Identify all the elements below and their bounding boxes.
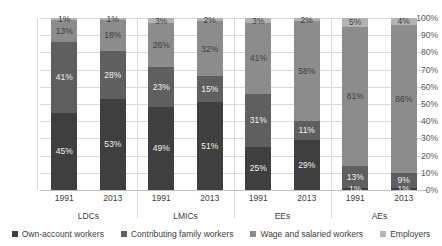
x-axis-year-label: 2013 (186, 190, 235, 203)
bar-segment[interactable]: 28% (100, 51, 126, 99)
legend-item[interactable]: Own-account workers (12, 230, 104, 239)
bar-slot: 3%26%23%49% (137, 18, 186, 190)
bar-segment-value-label: 1% (58, 15, 70, 24)
bar-segment-value-label: 1% (349, 185, 361, 194)
bar-segment-value-label: 13% (56, 27, 73, 36)
y-axis-tick-label: 10% (421, 169, 438, 178)
bar-segment-value-label: 2% (204, 15, 216, 24)
bar-segment-value-label: 1% (398, 185, 410, 194)
bar-segment[interactable]: 4% (391, 18, 417, 25)
bar-segment-value-label: 29% (298, 161, 315, 170)
stacked-bar[interactable]: 2%58%11%29% (294, 18, 320, 190)
bar-segment-value-label: 18% (104, 31, 121, 40)
y-axis-line (37, 18, 38, 190)
bar-segment-value-label: 58% (298, 67, 315, 76)
stacked-bar[interactable]: 3%26%23%49% (148, 18, 174, 190)
stacked-bar[interactable]: 3%41%31%25% (245, 18, 271, 190)
bar-group: 3%41%31%25%2%58%11%29% (234, 18, 331, 190)
y-axis-tick-label: 60% (421, 83, 438, 92)
bar-segment[interactable]: 18% (100, 20, 126, 51)
bar-segment-value-label: 13% (347, 173, 364, 182)
legend-label: Employers (390, 230, 430, 239)
stacked-bar[interactable]: 4%86%9%1% (391, 18, 417, 190)
legend-swatch-icon (12, 231, 18, 237)
bar-segment-value-label: 41% (250, 54, 267, 63)
legend-label: Wage and salaried workers (260, 230, 363, 239)
legend-item[interactable]: Employers (380, 230, 430, 239)
legend-swatch-icon (380, 231, 386, 237)
bar-segment[interactable]: 29% (294, 140, 320, 190)
bar-group: 5%81%13%1%4%86%9%1% (331, 18, 428, 190)
bar-segment-value-label: 2% (301, 15, 313, 24)
category-group-label: 19912013LMICs (137, 190, 234, 224)
bar-slot: 5%81%13%1% (331, 18, 380, 190)
bar-segment-value-label: 5% (349, 18, 361, 27)
bar-segment[interactable]: 5% (342, 18, 368, 27)
legend-swatch-icon (121, 231, 127, 237)
y-axis-tick-label: 80% (421, 48, 438, 57)
bar-segment[interactable]: 81% (342, 27, 368, 166)
bar-segment-value-label: 11% (299, 126, 315, 135)
bar-segment-value-label: 23% (153, 83, 170, 92)
bar-segment-value-label: 3% (252, 16, 264, 25)
x-axis-year-label: 1991 (234, 190, 283, 203)
x-axis-year-label: 1991 (137, 190, 186, 203)
bar-segment[interactable]: 11% (294, 121, 320, 140)
bar-segment[interactable]: 58% (294, 21, 320, 121)
bar-segment[interactable]: 86% (391, 25, 417, 173)
bar-segment[interactable]: 41% (51, 42, 77, 113)
bar-segment-value-label: 81% (347, 92, 364, 101)
bar-segment[interactable]: 41% (245, 23, 271, 94)
legend-item[interactable]: Wage and salaried workers (250, 230, 363, 239)
bar-segment-value-label: 31% (250, 116, 267, 125)
stacked-bar-chart: 1%13%41%45%1%18%28%53%3%26%23%49%2%32%15… (0, 0, 442, 246)
bar-segment-value-label: 53% (104, 140, 121, 149)
bar-segment-value-label: 26% (153, 41, 170, 50)
bar-segment[interactable]: 45% (51, 113, 77, 190)
x-axis-category-label: AEs (331, 203, 428, 221)
x-axis-category-label: LMICs (137, 203, 234, 221)
bar-segment[interactable]: 31% (245, 94, 271, 147)
stacked-bar[interactable]: 1%13%41%45% (51, 18, 77, 190)
bar-segment-value-label: 45% (56, 147, 73, 156)
bar-segment[interactable]: 32% (197, 21, 223, 76)
y-axis-tick-label: 90% (421, 31, 438, 40)
bar-segment-value-label: 25% (250, 164, 267, 173)
bar-slot: 1%13%41%45% (40, 18, 89, 190)
bar-segment[interactable]: 49% (148, 107, 174, 190)
bar-segment-value-label: 51% (201, 142, 218, 151)
plot-area: 1%13%41%45%1%18%28%53%3%26%23%49%2%32%15… (40, 18, 428, 190)
bar-group: 3%26%23%49%2%32%15%51% (137, 18, 234, 190)
y-axis-tick-label: 50% (421, 100, 438, 109)
y-axis-tick-label: 30% (421, 134, 438, 143)
bar-segment-value-label: 49% (153, 144, 170, 153)
bar-segment-value-label: 32% (201, 45, 218, 54)
legend-item[interactable]: Contributing family workers (121, 230, 234, 239)
bar-segment-value-label: 86% (395, 95, 412, 104)
category-group-label: 19912013AEs (331, 190, 428, 224)
bar-slot: 3%41%31%25% (234, 18, 283, 190)
stacked-bar[interactable]: 1%18%28%53% (100, 18, 126, 190)
y-axis-tick-label: 70% (421, 65, 438, 74)
bar-segment[interactable]: 23% (148, 67, 174, 106)
bar-segment[interactable]: 51% (197, 102, 223, 190)
x-axis-year-label: 2013 (89, 190, 138, 203)
y-axis-tick-label: 40% (421, 117, 438, 126)
stacked-bar[interactable]: 5%81%13%1% (342, 18, 368, 190)
x-axis-year-label: 2013 (283, 190, 332, 203)
bar-segment-value-label: 4% (398, 17, 410, 26)
bar-segment-value-label: 1% (107, 15, 119, 24)
stacked-bar[interactable]: 2%32%15%51% (197, 18, 223, 190)
y-axis-tick-label: 20% (421, 151, 438, 160)
bar-segment[interactable]: 15% (197, 76, 223, 102)
bar-segment[interactable]: 26% (148, 23, 174, 67)
category-group-label: 19912013EEs (234, 190, 331, 224)
bar-groups: 1%13%41%45%1%18%28%53%3%26%23%49%2%32%15… (40, 18, 428, 190)
y-axis-tick-label: 0% (426, 186, 438, 195)
y-axis-tick-label: 100% (416, 14, 438, 23)
x-axis-category-label: EEs (234, 203, 331, 221)
bar-segment[interactable]: 25% (245, 147, 271, 190)
chart-legend: Own-account workersContributing family w… (0, 226, 442, 242)
bar-segment[interactable]: 53% (100, 99, 126, 190)
category-group-label: 19912013LDCs (40, 190, 137, 224)
